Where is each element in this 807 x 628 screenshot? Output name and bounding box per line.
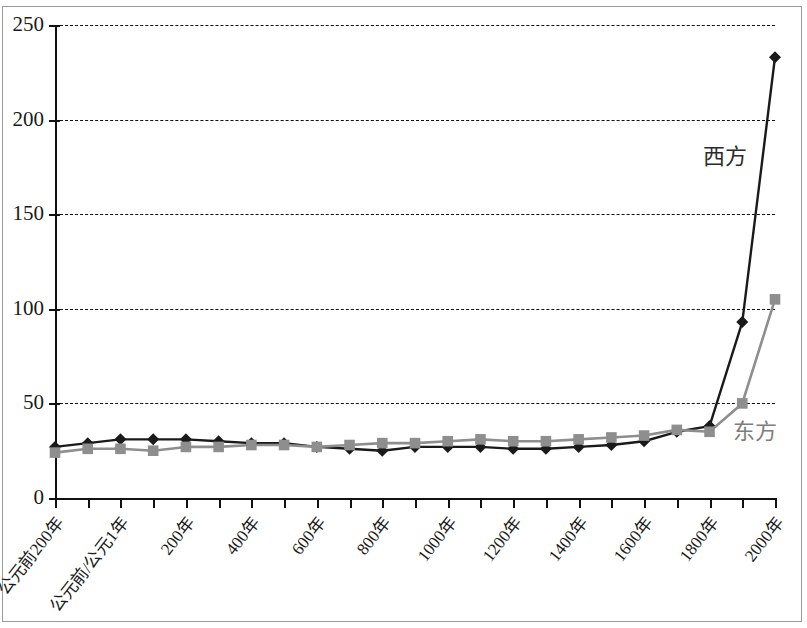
data-point-marker-square	[279, 440, 290, 451]
data-point-marker-square	[344, 440, 355, 451]
series-label-west: 西方	[703, 146, 747, 168]
data-point-marker-square	[508, 436, 519, 447]
data-point-marker-diamond	[147, 433, 159, 445]
data-point-marker-square	[573, 434, 584, 445]
data-point-marker-square	[148, 445, 159, 456]
data-point-marker-square	[50, 447, 61, 458]
data-point-marker-diamond	[736, 316, 748, 328]
data-point-marker-square	[442, 436, 453, 447]
series-line-east	[55, 299, 775, 452]
data-point-marker-square	[737, 398, 748, 409]
chart-container: 050100150200250 公元前200年公元前/公元1年200年400年6…	[0, 0, 807, 628]
series-west	[49, 51, 781, 457]
data-point-marker-square	[246, 440, 257, 451]
data-point-marker-square	[475, 434, 486, 445]
data-point-marker-square	[704, 426, 715, 437]
data-point-marker-square	[606, 432, 617, 443]
data-series-layer	[0, 0, 807, 628]
data-point-marker-square	[312, 442, 323, 453]
data-point-marker-square	[672, 425, 683, 436]
data-point-marker-square	[541, 436, 552, 447]
data-point-marker-square	[770, 294, 781, 305]
data-point-marker-square	[115, 444, 126, 455]
series-line-west	[55, 57, 775, 451]
data-point-marker-square	[181, 442, 192, 453]
series-label-east: 东方	[733, 421, 777, 443]
data-point-marker-square	[82, 444, 93, 455]
data-point-marker-square	[213, 442, 224, 453]
data-point-marker-square	[410, 438, 421, 449]
data-point-marker-diamond	[769, 51, 781, 63]
data-point-marker-square	[639, 430, 650, 441]
data-point-marker-square	[377, 438, 388, 449]
